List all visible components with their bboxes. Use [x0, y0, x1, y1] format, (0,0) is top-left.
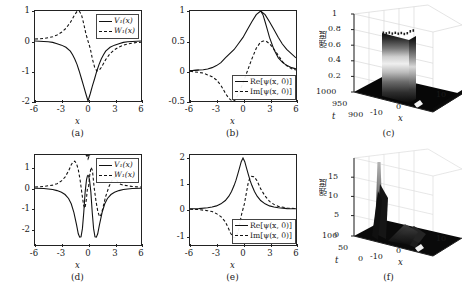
panel-e-legend-entry-im: Im[ψ(x, 0)] — [235, 231, 292, 241]
panel-a-xtick-2: 0 — [85, 104, 90, 114]
panel-b-label: (b) — [155, 128, 310, 138]
dashed-line-swatch-icon — [99, 175, 112, 176]
panel-f-ztick-3: 15 — [328, 172, 338, 181]
dashed-line-swatch-icon — [235, 235, 248, 236]
panel-d-xtick-mark-4 — [142, 244, 143, 247]
panel-a-xtick-mark-1 — [62, 100, 63, 103]
panel-f-label: (f) — [310, 272, 467, 282]
panel-a-legend: V₁(x) W₁(x) — [96, 14, 139, 39]
panel-e-xtick-mark-1 — [217, 244, 218, 247]
panel-b-legend-entry-re: Re[ψ(x, 0)] — [235, 77, 292, 87]
panel-c-ztick-2: 0.6 — [328, 40, 341, 49]
panel-e-xtick-3: 3 — [267, 248, 272, 258]
panel-b-xtick-2: 0 — [240, 104, 245, 114]
panel-b-legend-entry-im: Im[ψ(x, 0)] — [235, 87, 292, 97]
panel-f-ytick-1: 50 — [338, 243, 348, 252]
panel-a-ytick-0: 1 — [0, 5, 30, 15]
panel-b-xaxis-label: x — [155, 116, 310, 126]
panel-a-xtick-mark-4 — [142, 100, 143, 103]
panel-e-xtick-mark-3 — [271, 244, 272, 247]
panel-a-ytick-3: -2 — [0, 96, 30, 106]
panel-e-xtick-4: 6 — [293, 248, 298, 258]
panel-e-legend-entry-re: Re[ψ(x, 0)] — [235, 221, 292, 231]
panel-f-xtick-0: -10 — [370, 252, 383, 261]
panel-b-xtick-4: 6 — [293, 104, 298, 114]
panel-d-legend-entry-v1: V₁(x) — [99, 160, 135, 170]
figure-root: V₁(x) W₁(x) 1 0 -1 -2 -6 -3 0 3 6 x (a) — [0, 0, 467, 288]
panel-e-xtick-1: -3 — [212, 248, 220, 258]
panel-c-xtick-0: -10 — [370, 108, 383, 117]
panel-b-ytick-2: 0 — [155, 66, 185, 76]
panel-b-xtick-0: -6 — [185, 104, 193, 114]
panel-a-ytick-mark-0 — [32, 11, 35, 12]
panel-d-legend: V₁(x) W₁(x) — [96, 158, 139, 183]
panel-a: V₁(x) W₁(x) 1 0 -1 -2 -6 -3 0 3 6 x (a) — [0, 0, 155, 144]
panel-e-ytick-mark-2 — [187, 210, 190, 211]
panel-a-ytick-1: 0 — [0, 36, 30, 46]
panel-f-ytick-2: 0 — [358, 254, 363, 263]
panel-e-xaxis-label: x — [155, 260, 310, 270]
panel-b-plot-area: Re[ψ(x, 0)] Im[ψ(x, 0)] — [189, 10, 297, 102]
panel-d-xtick-3: 3 — [112, 248, 117, 258]
panel-e-label: (e) — [155, 272, 310, 282]
panel-e-ytick-0: 2 — [155, 152, 185, 162]
panel-a-xtick-mark-2 — [89, 100, 90, 103]
panel-d-ytick-0: 1 — [0, 162, 30, 172]
panel-e-legend-label-im: Im[ψ(x, 0)] — [250, 231, 292, 241]
panel-b-legend-label-re: Re[ψ(x, 0)] — [250, 77, 292, 87]
panel-e-xtick-mark-2 — [244, 244, 245, 247]
panel-d-ytick-mark-1 — [32, 189, 35, 190]
panel-b-legend: Re[ψ(x, 0)] Im[ψ(x, 0)] — [232, 75, 296, 100]
panel-c-ztick-4: 1 — [332, 9, 337, 18]
panel-e-ytick-mark-3 — [187, 237, 190, 238]
panel-c-xtick-1: 0 — [396, 102, 401, 111]
panel-f: 强度 15 10 5 0 100 50 0 t -10 0 10 x (f) — [310, 144, 467, 288]
panel-a-plot-area: V₁(x) W₁(x) — [34, 10, 142, 102]
panel-d: V₁(x) W₁(x) 1 0 -1 -2 -6 -3 0 3 6 x (d) — [0, 144, 155, 288]
panel-d-ytick-2: -1 — [0, 203, 30, 213]
panel-c-ytick-0: 1000 — [316, 87, 336, 96]
panel-b: Re[ψ(x, 0)] Im[ψ(x, 0)] 1 0.5 0 -0.5 -6 … — [155, 0, 310, 144]
panel-a-legend-label-v1: V₁(x) — [114, 16, 133, 26]
panel-d-ytick-mark-0 — [32, 168, 35, 169]
panel-b-ytick-mark-1 — [187, 42, 190, 43]
panel-a-ytick-mark-1 — [32, 42, 35, 43]
panel-a-xtick-mark-3 — [116, 100, 117, 103]
solid-line-swatch-icon — [235, 81, 248, 82]
panel-b-xtick-mark-2 — [244, 100, 245, 103]
panel-a-ytick-2: -1 — [0, 66, 30, 76]
panel-c-label: (c) — [310, 128, 467, 138]
panel-d-label: (d) — [0, 272, 155, 282]
panel-c-ztick-0: 0.2 — [328, 71, 341, 80]
panel-f-xtick-1: 0 — [396, 246, 401, 255]
panel-b-ytick-1: 0.5 — [155, 36, 185, 46]
panel-c-xaxis-label: x — [398, 113, 403, 123]
panel-b-xtick-mark-4 — [297, 100, 298, 103]
panel-b-xtick-1: -3 — [212, 104, 220, 114]
panel-d-legend-label-w1: W₁(x) — [114, 170, 135, 180]
panel-d-ytick-mark-3 — [32, 230, 35, 231]
panel-c: 强度 1 0.8 0.6 0.4 0.2 1000 950 900 t -10 … — [310, 0, 467, 144]
panel-e: Re[ψ(x, 0)] Im[ψ(x, 0)] 2 1 0 -1 -6 -3 0… — [155, 144, 310, 288]
panel-e-xtick-mark-4 — [297, 244, 298, 247]
panel-f-xtick-2: 10 — [436, 234, 446, 243]
panel-a-xtick-mark-0 — [35, 100, 36, 103]
panel-a-legend-entry-w1: W₁(x) — [99, 26, 135, 36]
solid-line-swatch-icon — [235, 225, 248, 226]
panel-d-plot-area: V₁(x) W₁(x) — [34, 154, 142, 246]
panel-c-ztick-3: 0.8 — [328, 24, 341, 33]
panel-a-xtick-4: 6 — [138, 104, 143, 114]
panel-e-ytick-mark-0 — [187, 158, 190, 159]
panel-d-ytick-3: -2 — [0, 224, 30, 234]
panel-f-yaxis-label: t — [335, 255, 338, 265]
panel-a-xtick-1: -3 — [57, 104, 65, 114]
panel-a-xaxis-label: x — [0, 116, 155, 126]
panel-a-xtick-3: 3 — [112, 104, 117, 114]
panel-d-xtick-mark-3 — [116, 244, 117, 247]
panel-d-xtick-4: 6 — [138, 248, 143, 258]
solid-line-swatch-icon — [99, 21, 112, 22]
panel-a-xtick-0: -6 — [30, 104, 38, 114]
panel-d-xtick-2: 0 — [85, 248, 90, 258]
panel-c-ytick-1: 950 — [332, 99, 347, 108]
panel-c-surface — [310, 0, 467, 128]
